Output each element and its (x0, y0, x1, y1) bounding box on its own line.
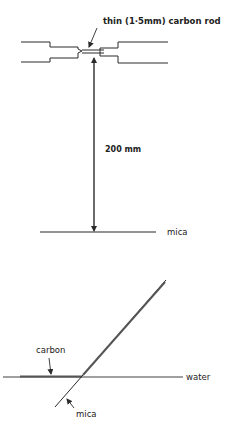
carbon-rod (82, 50, 104, 53)
carbon-film-diagram: thin (1·5mm) carbon rod 200 mm mica wate… (0, 0, 226, 433)
mica-label-top: mica (167, 227, 188, 237)
mica-leader-arrow (67, 399, 74, 408)
mica-label-bottom: mica (76, 409, 97, 419)
distance-label: 200 mm (105, 145, 141, 154)
carbon-label: carbon (36, 345, 65, 355)
right-electrode (100, 42, 168, 63)
carbon-film-on-mica (83, 282, 165, 375)
carbon-leader-arrow (49, 358, 51, 374)
rod-leader-arrow (89, 28, 97, 47)
water-label: water (186, 372, 211, 382)
left-electrode (21, 42, 82, 62)
rod-label: thin (1·5mm) carbon rod (103, 16, 221, 26)
